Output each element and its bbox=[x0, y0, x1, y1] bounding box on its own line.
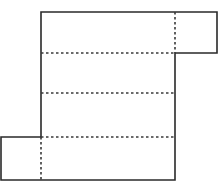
net-boundary bbox=[1, 12, 217, 180]
cuboid-net-diagram bbox=[0, 0, 224, 187]
net-outline bbox=[1, 12, 217, 180]
fold-lines bbox=[41, 12, 175, 180]
